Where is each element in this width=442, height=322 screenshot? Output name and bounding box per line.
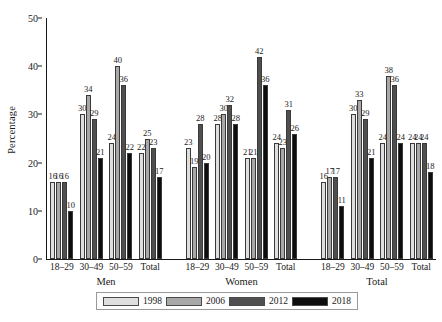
x-category-label: 18–29	[185, 262, 209, 272]
plot-area: 1616161030342921244036222225231723192820…	[47, 18, 436, 259]
bar-rect	[62, 182, 67, 259]
bar-rect	[357, 100, 362, 259]
bar: 33	[357, 18, 362, 259]
bar: 16	[321, 18, 326, 259]
bar-rect	[80, 114, 85, 259]
bar: 36	[263, 18, 268, 259]
y-tick-mark	[38, 66, 42, 67]
bar: 29	[92, 18, 97, 259]
bar-rect	[257, 57, 262, 259]
bar-rect	[56, 182, 61, 259]
bar-rect	[127, 153, 132, 259]
bar-value-label: 22	[125, 143, 134, 152]
bar-rect	[139, 153, 144, 259]
bar: 23	[186, 18, 191, 259]
bar: 16	[50, 18, 55, 259]
bar-rect	[121, 85, 126, 259]
y-tick-label: 20	[28, 157, 38, 168]
legend-item: 1998	[103, 296, 162, 306]
x-group-label: Women	[225, 276, 257, 287]
bar-value-label: 26	[290, 124, 299, 133]
bar-value-label: 24	[396, 133, 405, 142]
bar: 29	[363, 18, 368, 259]
bar: 24	[398, 18, 403, 259]
bar: 30	[351, 18, 356, 259]
x-category-label: Total	[141, 262, 160, 272]
bar-rect	[151, 148, 156, 259]
bar-rect	[398, 143, 403, 259]
legend-item: 2012	[229, 296, 288, 306]
bar-value-label: 36	[261, 75, 270, 84]
bar-value-label: 21	[367, 148, 376, 157]
bar-rect	[274, 143, 279, 259]
y-tick-label: 50	[28, 13, 38, 24]
bar-rect	[115, 66, 120, 259]
bar-rect	[369, 158, 374, 259]
bar-rect	[92, 119, 97, 259]
x-category-label: 30–49	[79, 262, 103, 272]
legend-swatch	[229, 297, 265, 306]
bar-rect	[392, 85, 397, 259]
bar: 34	[86, 18, 91, 259]
bar: 32	[227, 18, 232, 259]
y-axis-title: Percentage	[2, 60, 20, 200]
bar-rect	[68, 211, 73, 259]
bar-rect	[109, 143, 114, 259]
x-category-label: Total	[412, 262, 431, 272]
bar: 10	[68, 18, 73, 259]
bar: 21	[369, 18, 374, 259]
bar: 31	[286, 18, 291, 259]
bar: 19	[192, 18, 197, 259]
bar-rect	[86, 95, 91, 259]
bar: 11	[339, 18, 344, 259]
bar-rect	[333, 177, 338, 259]
y-tick-mark	[38, 259, 42, 260]
x-category-label: 50–59	[380, 262, 404, 272]
bar: 28	[198, 18, 203, 259]
bar: 24	[109, 18, 114, 259]
x-category-label: 50–59	[244, 262, 268, 272]
bar: 22	[139, 18, 144, 259]
bar: 21	[98, 18, 103, 259]
y-tick-mark	[38, 114, 42, 115]
bar-group: 16171711303329212438362424242418	[318, 18, 436, 259]
bar-rect	[245, 158, 250, 259]
x-category-label: Total	[276, 262, 295, 272]
bar-value-label: 11	[338, 196, 346, 205]
bar-rect	[157, 177, 162, 259]
bar-rect	[386, 76, 391, 259]
bar-value-label: 21	[96, 148, 105, 157]
bar: 16	[62, 18, 67, 259]
x-group-label: Total	[366, 276, 387, 287]
bar: 28	[233, 18, 238, 259]
bar: 17	[157, 18, 162, 259]
bar: 30	[80, 18, 85, 259]
bar: 23	[151, 18, 156, 259]
x-axis-line	[46, 259, 436, 260]
bar: 24	[422, 18, 427, 259]
bar: 18	[428, 18, 433, 259]
legend-swatch	[166, 297, 202, 306]
bar-rect	[363, 119, 368, 259]
bar-rect	[292, 134, 297, 259]
chart-legend: 1998200620122018	[96, 292, 358, 310]
bar: 28	[215, 18, 220, 259]
bar: 36	[121, 18, 126, 259]
bar-rect	[145, 139, 150, 260]
bar-rect	[251, 158, 256, 259]
bar-rect	[204, 163, 209, 259]
bar: 42	[257, 18, 262, 259]
bar-rect	[280, 148, 285, 259]
x-category-label: 18–29	[321, 262, 345, 272]
bar-rect	[192, 167, 197, 259]
bar-rect	[428, 172, 433, 259]
bar-rect	[50, 182, 55, 259]
y-tick-label: 10	[28, 205, 38, 216]
bar-rect	[198, 124, 203, 259]
x-category-label: 30–49	[215, 262, 239, 272]
x-category-label: 50–59	[109, 262, 133, 272]
legend-label: 2018	[332, 296, 351, 306]
bar-rect	[410, 143, 415, 259]
bar-rect	[339, 206, 344, 259]
bar: 26	[292, 18, 297, 259]
